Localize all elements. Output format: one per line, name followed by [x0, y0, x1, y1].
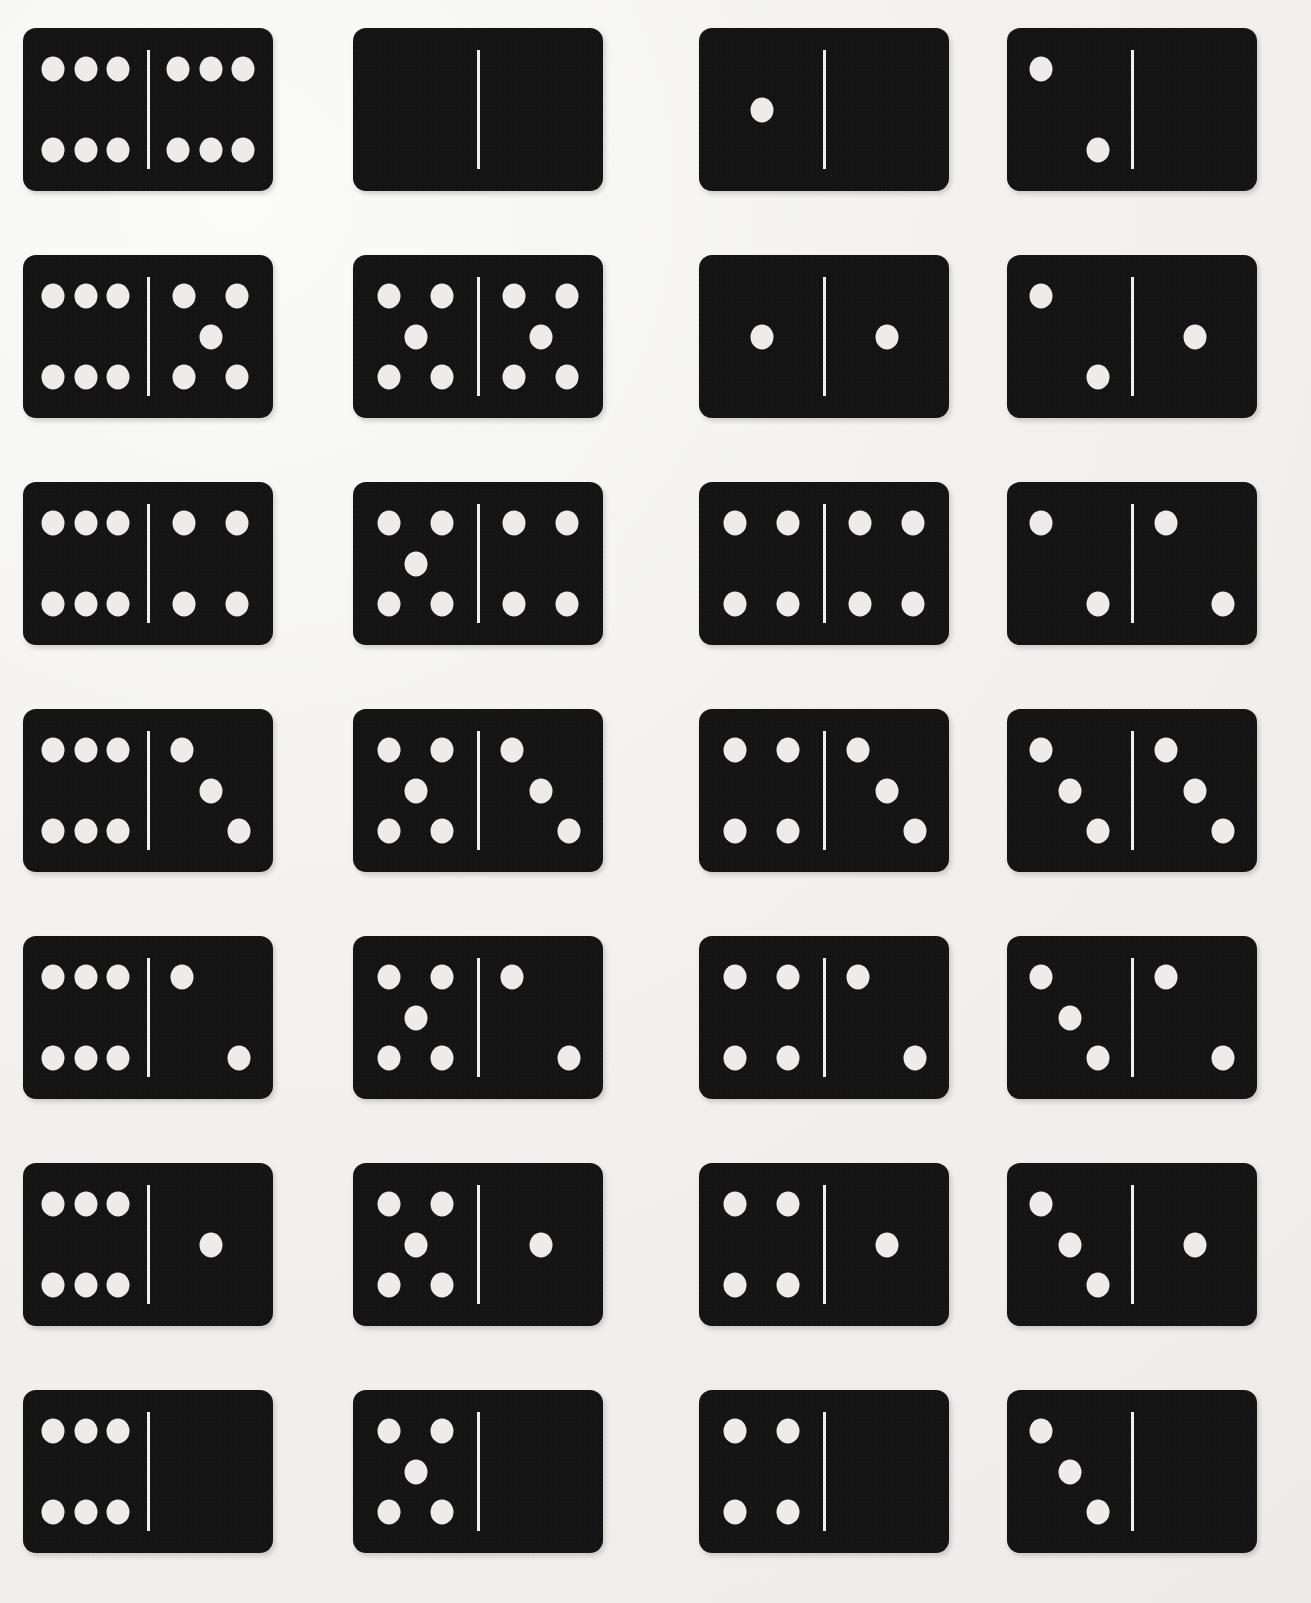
domino-half-right	[824, 1390, 949, 1553]
pip	[846, 737, 869, 762]
domino-half-left	[353, 1390, 478, 1553]
grid-cell	[328, 709, 603, 936]
pip	[724, 1191, 747, 1216]
domino-1-0[interactable]	[699, 28, 949, 191]
pip	[750, 97, 773, 122]
pip	[724, 964, 747, 989]
pip	[228, 819, 251, 844]
domino-0-0[interactable]	[353, 28, 603, 191]
pip	[1087, 1500, 1110, 1525]
pip	[1212, 819, 1235, 844]
pip	[378, 1273, 401, 1298]
domino-half-left	[699, 255, 824, 418]
pip	[42, 138, 65, 163]
domino-4-2[interactable]	[699, 936, 949, 1099]
domino-2-1[interactable]	[1007, 255, 1257, 418]
domino-half-right	[478, 1390, 603, 1553]
domino-4-3[interactable]	[699, 709, 949, 872]
pip	[232, 138, 255, 163]
pip	[378, 1046, 401, 1071]
grid-cell	[0, 255, 273, 482]
domino-4-4[interactable]	[699, 482, 949, 645]
pip	[500, 964, 523, 989]
domino-4-0[interactable]	[699, 1390, 949, 1553]
domino-3-3[interactable]	[1007, 709, 1257, 872]
domino-half-left	[353, 1163, 478, 1326]
domino-half-left	[353, 255, 478, 418]
pip	[228, 1046, 251, 1071]
domino-half-left	[23, 1163, 148, 1326]
grid-cell	[984, 255, 1257, 482]
pip	[904, 819, 927, 844]
pip	[173, 510, 196, 535]
domino-half-right	[1132, 1163, 1257, 1326]
pip	[173, 283, 196, 308]
grid-cell	[0, 482, 273, 709]
domino-half-left	[353, 709, 478, 872]
domino-5-1[interactable]	[353, 1163, 603, 1326]
pip	[225, 510, 248, 535]
domino-6-4[interactable]	[23, 482, 273, 645]
domino-4-1[interactable]	[699, 1163, 949, 1326]
domino-2-2[interactable]	[1007, 482, 1257, 645]
pip	[1087, 1273, 1110, 1298]
domino-3-0[interactable]	[1007, 1390, 1257, 1553]
pip	[1154, 737, 1177, 762]
pip	[378, 1500, 401, 1525]
pip	[776, 510, 799, 535]
pip	[430, 1046, 453, 1071]
domino-2-0[interactable]	[1007, 28, 1257, 191]
pip	[724, 1500, 747, 1525]
pip	[378, 964, 401, 989]
pip	[503, 283, 526, 308]
domino-5-5[interactable]	[353, 255, 603, 418]
pip	[1212, 592, 1235, 617]
domino-6-2[interactable]	[23, 936, 273, 1099]
domino-half-left	[1007, 936, 1132, 1099]
domino-5-2[interactable]	[353, 936, 603, 1099]
domino-6-3[interactable]	[23, 709, 273, 872]
domino-half-right	[148, 1163, 273, 1326]
domino-grid	[0, 0, 1311, 1603]
pip	[173, 592, 196, 617]
domino-5-0[interactable]	[353, 1390, 603, 1553]
pip	[1029, 56, 1052, 81]
domino-half-left	[23, 709, 148, 872]
pip	[430, 819, 453, 844]
pip	[724, 592, 747, 617]
pip	[74, 1500, 97, 1525]
pip	[500, 737, 523, 762]
pip	[378, 1418, 401, 1443]
domino-6-1[interactable]	[23, 1163, 273, 1326]
domino-6-0[interactable]	[23, 1390, 273, 1553]
domino-half-left	[23, 1390, 148, 1553]
domino-6-6[interactable]	[23, 28, 273, 191]
domino-5-3[interactable]	[353, 709, 603, 872]
domino-3-2[interactable]	[1007, 936, 1257, 1099]
domino-6-5[interactable]	[23, 255, 273, 418]
pip	[74, 365, 97, 390]
domino-divider	[477, 731, 480, 850]
domino-half-left	[23, 28, 148, 191]
pip	[42, 510, 65, 535]
domino-1-1[interactable]	[699, 255, 949, 418]
domino-half-right	[148, 482, 273, 645]
pip	[875, 778, 898, 803]
pip	[170, 737, 193, 762]
grid-cell	[656, 1163, 949, 1390]
pip	[167, 138, 190, 163]
domino-divider	[823, 731, 826, 850]
domino-divider	[1131, 958, 1134, 1077]
pip	[378, 510, 401, 535]
pip	[724, 1273, 747, 1298]
domino-half-left	[699, 1163, 824, 1326]
pip	[1058, 1232, 1081, 1257]
domino-half-left	[1007, 1390, 1132, 1553]
domino-divider	[147, 504, 150, 623]
domino-5-4[interactable]	[353, 482, 603, 645]
grid-cell	[984, 936, 1257, 1163]
domino-3-1[interactable]	[1007, 1163, 1257, 1326]
domino-half-left	[23, 482, 148, 645]
domino-divider	[823, 1185, 826, 1304]
pip	[74, 510, 97, 535]
